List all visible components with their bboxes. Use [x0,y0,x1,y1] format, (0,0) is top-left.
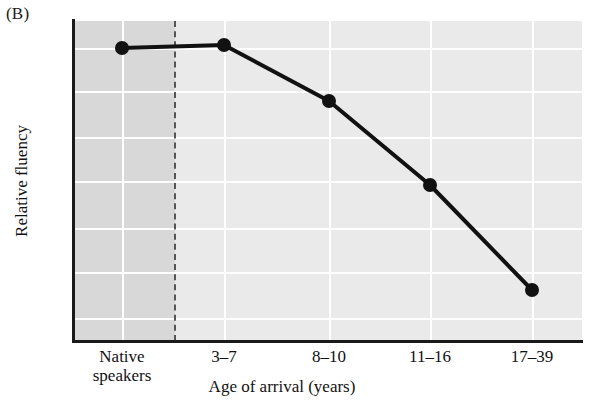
gridline-vertical [430,21,432,341]
x-tick-label-11-16: 11–16 [409,347,451,366]
figure-panel-b: (B) Native speakers 3–7 8–10 11–16 17–39… [0,0,597,403]
native-speaker-divider-line [174,21,176,341]
gridline-horizontal [74,228,582,230]
x-axis-title: Age of arrival (years) [209,377,356,397]
y-axis-title: Relative fluency [12,125,32,237]
y-axis-line [72,19,75,343]
gridline-vertical [224,21,226,341]
gridline-vertical [329,21,331,341]
gridline-vertical [122,21,124,341]
plot-area [74,21,582,341]
gridline-vertical [532,21,534,341]
gridline-horizontal [74,181,582,183]
gridline-horizontal [74,137,582,139]
x-tick-label-8-10: 8–10 [312,347,346,366]
x-tick-label-3-7: 3–7 [211,347,237,366]
x-tick-label-17-39: 17–39 [511,347,554,366]
x-tick-label-native-speakers: Native speakers [93,347,152,385]
gridline-horizontal [74,91,582,93]
panel-label: (B) [6,4,29,24]
gridline-horizontal [74,48,582,50]
x-axis-line [72,340,583,343]
gridline-horizontal [74,272,582,274]
gridline-horizontal [74,318,582,320]
